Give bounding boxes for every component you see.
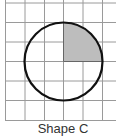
- figure-caption: Shape C: [0, 121, 116, 136]
- shape-diagram: [0, 0, 116, 136]
